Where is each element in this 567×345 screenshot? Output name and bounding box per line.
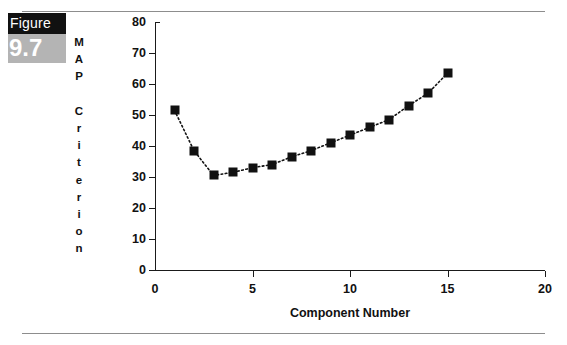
data-point xyxy=(287,152,296,161)
data-point xyxy=(404,101,413,110)
y-tick-label-60: 60 xyxy=(132,77,146,91)
y-tick-label-70: 70 xyxy=(132,46,146,60)
data-point xyxy=(365,123,374,132)
x-tick-label-10: 10 xyxy=(343,282,357,296)
figure-badge-word: Figure xyxy=(8,13,66,34)
x-tick-15 xyxy=(448,271,449,277)
y-axis-title: M A P C r i t e r i o n xyxy=(68,34,90,258)
y-tick-label-10: 10 xyxy=(132,232,146,246)
x-tick-label-20: 20 xyxy=(538,282,552,296)
data-point xyxy=(229,168,238,177)
data-point xyxy=(209,171,218,180)
y-tick-label-40: 40 xyxy=(132,139,146,153)
figure-badge: Figure 9.7 xyxy=(8,13,66,63)
data-point xyxy=(307,146,316,155)
x-tick-label-15: 15 xyxy=(441,282,455,296)
data-point xyxy=(424,89,433,98)
x-tick-5 xyxy=(253,271,254,277)
data-point xyxy=(268,160,277,169)
x-tick-label-5: 5 xyxy=(249,282,256,296)
top-divider xyxy=(22,11,545,12)
data-point xyxy=(170,106,179,115)
y-tick-0 xyxy=(149,270,155,271)
y-tick-label-0: 0 xyxy=(139,263,146,277)
data-point xyxy=(190,146,199,155)
x-tick-label-0: 0 xyxy=(152,282,159,296)
plot-area: 01020304050607080 05101520 Component Num… xyxy=(155,22,545,270)
y-tick-label-80: 80 xyxy=(132,15,146,29)
x-tick-20 xyxy=(545,271,546,277)
data-point xyxy=(385,115,394,124)
y-tick-label-30: 30 xyxy=(132,170,146,184)
data-point xyxy=(443,69,452,78)
series-line xyxy=(155,22,545,270)
data-point xyxy=(326,138,335,147)
figure-badge-number: 9.7 xyxy=(8,34,66,63)
x-axis-title: Component Number xyxy=(155,306,545,320)
data-point xyxy=(248,163,257,172)
bottom-divider xyxy=(22,333,545,334)
x-tick-10 xyxy=(350,271,351,277)
data-point xyxy=(346,131,355,140)
y-tick-label-50: 50 xyxy=(132,108,146,122)
y-tick-label-20: 20 xyxy=(132,201,146,215)
